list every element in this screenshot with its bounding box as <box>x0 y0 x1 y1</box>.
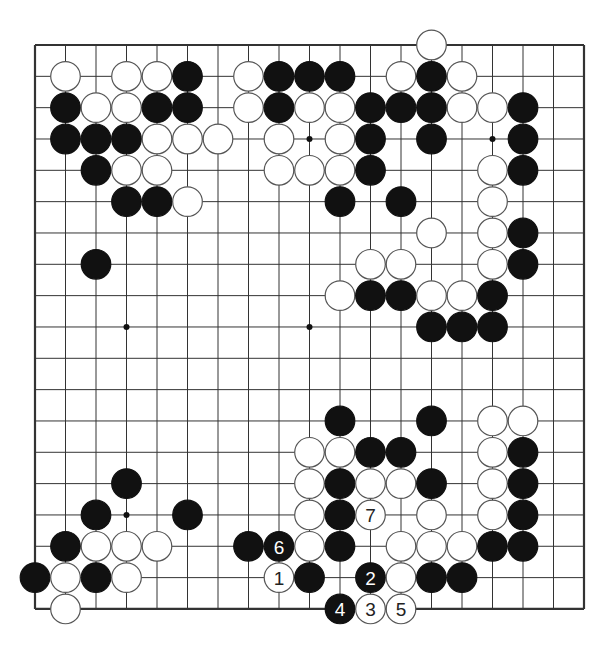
white-stone[interactable] <box>478 250 508 280</box>
black-stone[interactable] <box>173 500 203 530</box>
black-stone[interactable]: 6 <box>264 531 294 561</box>
white-stone[interactable] <box>295 500 325 530</box>
black-stone[interactable] <box>417 469 447 499</box>
black-stone[interactable] <box>417 312 447 342</box>
black-stone[interactable] <box>325 187 355 217</box>
white-stone[interactable] <box>478 218 508 248</box>
white-stone[interactable] <box>325 281 355 311</box>
white-stone[interactable] <box>142 531 172 561</box>
white-stone[interactable] <box>142 124 172 154</box>
white-stone[interactable] <box>478 156 508 186</box>
black-stone[interactable] <box>20 563 50 593</box>
black-stone[interactable] <box>417 563 447 593</box>
black-stone[interactable] <box>478 281 508 311</box>
white-stone[interactable] <box>295 93 325 123</box>
white-stone[interactable] <box>386 563 416 593</box>
black-stone[interactable] <box>508 469 538 499</box>
black-stone[interactable] <box>508 437 538 467</box>
white-stone[interactable] <box>81 93 111 123</box>
white-stone[interactable] <box>417 531 447 561</box>
white-stone[interactable] <box>264 156 294 186</box>
white-stone[interactable] <box>386 250 416 280</box>
white-stone[interactable] <box>81 531 111 561</box>
black-stone[interactable] <box>356 124 386 154</box>
black-stone[interactable] <box>173 93 203 123</box>
black-stone[interactable] <box>386 187 416 217</box>
white-stone[interactable] <box>325 156 355 186</box>
black-stone[interactable] <box>51 124 81 154</box>
black-stone[interactable] <box>264 62 294 92</box>
black-stone[interactable] <box>478 531 508 561</box>
black-stone[interactable] <box>81 156 111 186</box>
black-stone[interactable] <box>508 93 538 123</box>
black-stone[interactable] <box>356 437 386 467</box>
black-stone[interactable] <box>81 250 111 280</box>
black-stone[interactable] <box>508 156 538 186</box>
black-stone[interactable] <box>325 469 355 499</box>
white-stone[interactable] <box>112 531 142 561</box>
white-stone[interactable] <box>386 62 416 92</box>
black-stone[interactable] <box>51 93 81 123</box>
black-stone[interactable] <box>356 93 386 123</box>
white-stone[interactable] <box>112 93 142 123</box>
black-stone[interactable] <box>356 156 386 186</box>
black-stone[interactable] <box>142 93 172 123</box>
black-stone[interactable] <box>508 250 538 280</box>
black-stone[interactable] <box>447 563 477 593</box>
white-stone[interactable] <box>142 156 172 186</box>
white-stone[interactable] <box>234 93 264 123</box>
white-stone[interactable] <box>142 62 172 92</box>
white-stone[interactable] <box>478 406 508 436</box>
white-stone[interactable] <box>112 156 142 186</box>
white-stone[interactable] <box>478 187 508 217</box>
black-stone[interactable] <box>386 437 416 467</box>
white-stone[interactable] <box>447 62 477 92</box>
white-stone[interactable] <box>356 250 386 280</box>
white-stone[interactable] <box>447 281 477 311</box>
black-stone[interactable] <box>112 469 142 499</box>
white-stone[interactable] <box>51 563 81 593</box>
black-stone[interactable] <box>173 62 203 92</box>
white-stone[interactable] <box>417 218 447 248</box>
white-stone[interactable] <box>173 187 203 217</box>
white-stone[interactable] <box>417 30 447 60</box>
white-stone[interactable] <box>173 124 203 154</box>
black-stone[interactable] <box>417 93 447 123</box>
white-stone[interactable] <box>447 531 477 561</box>
white-stone[interactable] <box>203 124 233 154</box>
black-stone[interactable] <box>356 281 386 311</box>
white-stone[interactable] <box>234 62 264 92</box>
black-stone[interactable] <box>447 312 477 342</box>
white-stone[interactable] <box>478 500 508 530</box>
white-stone[interactable] <box>325 124 355 154</box>
black-stone[interactable] <box>478 312 508 342</box>
black-stone[interactable]: 2 <box>356 563 386 593</box>
white-stone[interactable] <box>295 469 325 499</box>
black-stone[interactable] <box>81 500 111 530</box>
black-stone[interactable] <box>417 62 447 92</box>
black-stone[interactable] <box>81 563 111 593</box>
white-stone[interactable] <box>447 93 477 123</box>
black-stone[interactable] <box>325 531 355 561</box>
black-stone[interactable] <box>508 531 538 561</box>
white-stone[interactable] <box>508 406 538 436</box>
white-stone[interactable] <box>51 594 81 624</box>
white-stone[interactable] <box>417 281 447 311</box>
black-stone[interactable] <box>295 563 325 593</box>
black-stone[interactable] <box>51 531 81 561</box>
black-stone[interactable] <box>142 187 172 217</box>
white-stone[interactable] <box>112 62 142 92</box>
black-stone[interactable] <box>81 124 111 154</box>
white-stone[interactable] <box>295 156 325 186</box>
white-stone[interactable] <box>356 469 386 499</box>
white-stone[interactable] <box>325 437 355 467</box>
white-stone[interactable] <box>325 93 355 123</box>
white-stone[interactable] <box>264 124 294 154</box>
black-stone[interactable] <box>295 62 325 92</box>
white-stone[interactable]: 3 <box>356 594 386 624</box>
black-stone[interactable] <box>508 124 538 154</box>
black-stone[interactable] <box>325 500 355 530</box>
white-stone[interactable] <box>386 469 416 499</box>
black-stone[interactable] <box>386 281 416 311</box>
white-stone[interactable]: 7 <box>356 500 386 530</box>
